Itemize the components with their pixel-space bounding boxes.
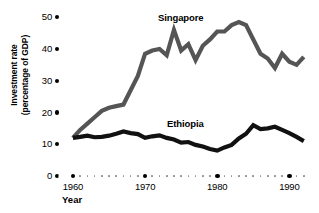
series-label-ethiopia: Ethiopia [167, 118, 204, 129]
plot-area [0, 0, 319, 213]
series-label-singapore: Singapore [158, 12, 204, 23]
chart-figure: Investment rate (percentage of GDP) 0102… [0, 0, 319, 213]
